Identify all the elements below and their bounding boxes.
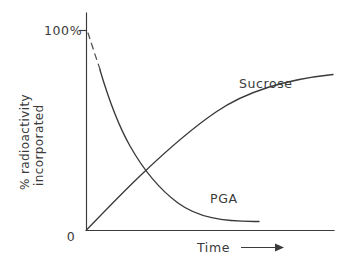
y-axis-title: % radioactivity incorporated [18,94,46,190]
sucrose-series-label: Sucrose [239,76,293,91]
radioactivity-vs-time-chart: 100% 0 % radioactivity incorporated Sucr… [0,0,351,263]
y-axis-tick-label-100: 100% [44,23,82,38]
y-axis-tick-label-0: 0 [67,229,76,244]
y-axis-title-line-1: % radioactivity [18,94,32,190]
x-axis-title: Time [196,240,230,255]
chart-background [0,0,351,263]
y-axis-title-line-2: incorporated [32,104,46,186]
pga-series-label: PGA [210,191,238,206]
